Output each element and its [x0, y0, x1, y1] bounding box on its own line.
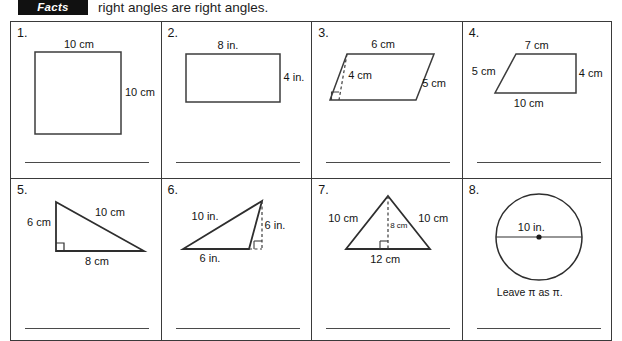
- problem-grid: 1. 10 cm 10 cm 2. 8 in. 4 in. 3.: [10, 21, 612, 341]
- label-triangle6-base: 6 in.: [200, 253, 221, 264]
- label-triangle5-hypotenuse: 10 cm: [95, 207, 125, 218]
- problem-cell-4: 4. 7 cm 5 cm 4 cm 10 cm: [462, 21, 612, 179]
- label-triangle7-height: 8 cm: [390, 222, 407, 230]
- problem-cell-3: 3. 6 cm 4 cm 5 cm: [311, 21, 463, 179]
- label-rectangle-right: 4 in.: [284, 72, 305, 83]
- answer-line-8[interactable]: [477, 328, 601, 329]
- label-trapezoid-top: 7 cm: [525, 40, 549, 51]
- label-rectangle-top: 8 in.: [218, 40, 239, 51]
- figure-rectangle: 8 in. 4 in.: [162, 22, 312, 178]
- label-triangle7-left: 10 cm: [328, 213, 358, 224]
- label-trapezoid-right: 4 cm: [579, 68, 603, 79]
- label-trapezoid-bottom: 10 cm: [514, 98, 544, 109]
- figure-parallelogram: 6 cm 4 cm 5 cm: [312, 22, 462, 178]
- figure-square: 10 cm 10 cm: [11, 22, 161, 178]
- problem-cell-8: 8. 10 in. Leave π as π.: [462, 178, 612, 341]
- answer-line-1[interactable]: [25, 162, 149, 163]
- figure-right-triangle: 6 cm 10 cm 8 cm: [11, 179, 161, 340]
- answer-line-7[interactable]: [326, 328, 450, 329]
- header-instruction-text: right angles are right angles.: [98, 0, 268, 16]
- figure-trapezoid: 7 cm 5 cm 4 cm 10 cm: [463, 22, 611, 178]
- problem-cell-6: 6. 10 in. 6 in. 6 in.: [161, 178, 313, 341]
- answer-line-6[interactable]: [176, 328, 300, 329]
- label-triangle7-right: 10 cm: [418, 213, 448, 224]
- label-square-top: 10 cm: [64, 39, 94, 50]
- figure-isosceles-triangle: 10 cm 8 cm 10 cm 12 cm: [312, 179, 462, 340]
- label-triangle6-side: 10 in.: [192, 211, 219, 222]
- label-parallelogram-height: 4 cm: [348, 70, 372, 81]
- answer-line-5[interactable]: [25, 328, 149, 329]
- label-triangle5-base: 8 cm: [85, 256, 109, 267]
- label-circle-diameter: 10 in.: [518, 222, 545, 233]
- circle-pi-note: Leave π as π.: [497, 286, 563, 298]
- problem-cell-1: 1. 10 cm 10 cm: [10, 21, 162, 179]
- facts-badge: Facts: [18, 0, 88, 15]
- label-square-right: 10 cm: [125, 87, 155, 98]
- problem-cell-5: 5. 6 cm 10 cm 8 cm: [10, 178, 162, 341]
- label-triangle6-height: 6 in.: [265, 220, 286, 231]
- figure-circle: 10 in. Leave π as π.: [463, 179, 611, 340]
- answer-line-2[interactable]: [176, 162, 300, 163]
- answer-line-4[interactable]: [477, 162, 601, 163]
- page-header: Facts right angles are right angles.: [0, 0, 622, 20]
- problem-cell-2: 2. 8 in. 4 in.: [161, 21, 313, 179]
- label-triangle5-left: 6 cm: [27, 217, 51, 228]
- answer-line-3[interactable]: [326, 162, 450, 163]
- label-trapezoid-left: 5 cm: [472, 66, 496, 77]
- label-parallelogram-side: 5 cm: [422, 78, 446, 89]
- label-triangle7-base: 12 cm: [370, 254, 400, 265]
- problem-cell-7: 7. 10 cm 8 cm 10 cm 12 cm: [311, 178, 463, 341]
- label-parallelogram-base: 6 cm: [371, 39, 395, 50]
- figure-obtuse-triangle: 10 in. 6 in. 6 in.: [162, 179, 312, 340]
